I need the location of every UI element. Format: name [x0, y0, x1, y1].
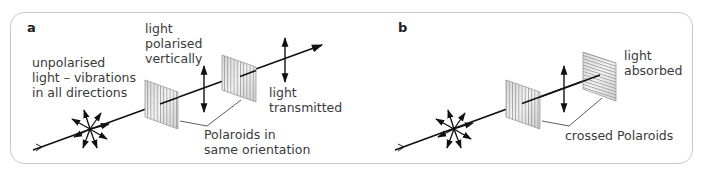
polaroid-filter-1 — [145, 80, 178, 129]
polarised-vertically-label: light polarised vertically — [145, 21, 202, 66]
unpolarised-vibrations-icon — [436, 110, 473, 148]
light-transmitted-label: light transmitted — [269, 85, 342, 115]
unpolarised-light-label: unpolarised light – vibrations in all di… — [32, 55, 136, 100]
light-absorbed-label: light absorbed — [624, 48, 682, 78]
polaroid-filter-horizontal — [583, 52, 616, 101]
polaroids-same-orientation-label: Polaroids in same orientation — [204, 127, 310, 157]
panel-b-label: b — [398, 20, 407, 35]
polaroid-filter-2 — [222, 55, 256, 102]
crossed-polaroids-leader-line — [542, 98, 602, 126]
unpolarised-vibrations-icon — [72, 110, 109, 148]
panel-a-label: a — [27, 20, 36, 35]
polaroids-leader-line — [180, 100, 241, 126]
crossed-polaroids-label: crossed Polaroids — [565, 128, 673, 143]
polaroid-filter-vertical — [506, 80, 540, 129]
